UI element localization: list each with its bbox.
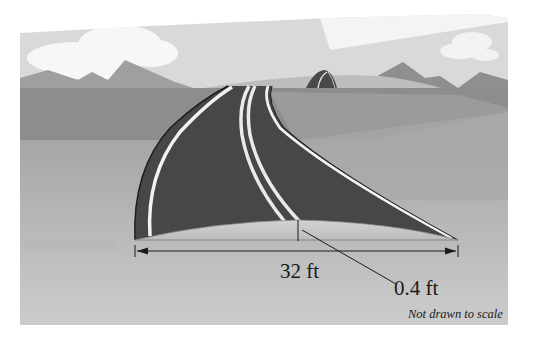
width-label: 32 ft: [280, 259, 319, 283]
crown-height-label: 0.4 ft: [394, 276, 438, 300]
illustration: 32 ft 0.4 ft Not drawn to scale: [0, 0, 552, 342]
road-crown-diagram: 32 ft 0.4 ft Not drawn to scale: [0, 0, 552, 342]
scale-note: Not drawn to scale: [407, 307, 503, 321]
